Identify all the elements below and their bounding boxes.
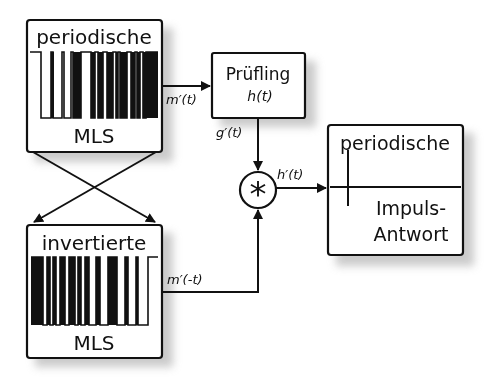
dut-block: Prüfling h(t) [212, 53, 305, 118]
result-line1: Impuls- [376, 197, 446, 219]
inverted-mls-title: invertierte [42, 231, 147, 255]
dut-title: Prüfling [226, 64, 291, 84]
signal-m-minus-t: m′(-t) [167, 272, 203, 287]
periodic-mls-title: periodische [36, 25, 152, 49]
result-line2: Antwort [374, 223, 449, 245]
inverted-mls-block: invertierte MLS [27, 225, 162, 358]
mls-measurement-diagram: periodische MLS invertierte [0, 0, 491, 384]
signal-h-t: h′(t) [277, 167, 303, 182]
periodic-mls-block: periodische MLS [27, 20, 162, 152]
periodic-mls-subtitle: MLS [73, 124, 114, 148]
signal-m-t: m′(t) [166, 92, 197, 107]
convolution-node: * [240, 172, 276, 214]
inverted-mls-subtitle: MLS [73, 331, 114, 355]
dut-function: h(t) [247, 88, 272, 104]
convolution-symbol: * [250, 174, 267, 214]
signal-g-t: g′(t) [216, 125, 242, 140]
impulse-response-block: periodische Impuls- Antwort [328, 125, 463, 255]
result-title: periodische [340, 132, 450, 154]
cross-arrows [33, 152, 156, 222]
